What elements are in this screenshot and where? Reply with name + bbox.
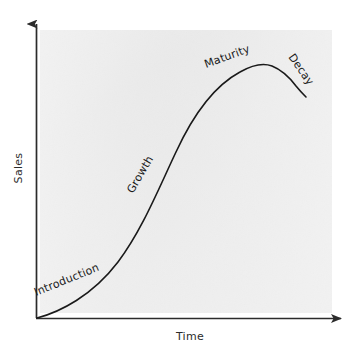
chart-canvas: Sales Time Introduction Growth Maturity …	[0, 0, 360, 352]
product-life-cycle-chart: Sales Time Introduction Growth Maturity …	[0, 0, 360, 352]
y-axis-title: Sales	[12, 153, 25, 184]
x-axis-title: Time	[175, 330, 204, 343]
